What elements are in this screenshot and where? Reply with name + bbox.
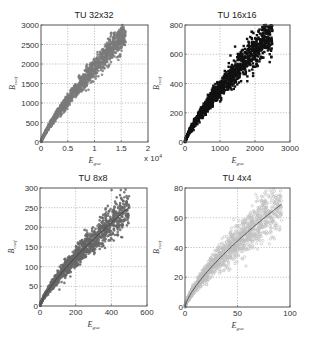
y-tick-label: 300 xyxy=(25,184,39,193)
chart-tu-16x16: TU 16x16 01000200030000200400600800EgsaB… xyxy=(152,10,299,166)
y-tick-label: 500 xyxy=(26,119,40,128)
y-tick-label: 800 xyxy=(170,21,184,30)
y-tick-label: 150 xyxy=(25,243,39,252)
y-tick-label: 40 xyxy=(174,244,183,253)
x-tick-label: 0 xyxy=(183,309,188,318)
y-tick-label: 1500 xyxy=(21,80,39,89)
chart-title: TU 4x4 xyxy=(222,173,251,183)
y-tick-label: 200 xyxy=(25,223,39,232)
chart-title: TU 16x16 xyxy=(217,10,256,20)
x-tick-label: 0.5 xyxy=(62,144,74,153)
y-tick-label: 2000 xyxy=(21,60,39,69)
x-tick-label: 2 xyxy=(146,144,151,153)
y-axis-label: Bcoef xyxy=(7,240,17,254)
x-tick-label: 50 xyxy=(233,309,242,318)
y-tick-label: 400 xyxy=(170,80,184,89)
y-axis-label: Bcoef xyxy=(8,76,18,90)
x-tick-label: 2000 xyxy=(246,144,264,153)
y-axis-label: Bcoef xyxy=(152,76,162,90)
chart-tu-8x8: TU 8x8 0200400600050100150200250300EgsaB… xyxy=(7,173,154,330)
chart-tu-32x32: TU 32x32 00.511.520500100015002000250030… xyxy=(8,10,162,166)
x-tick-label: 3000 xyxy=(281,144,299,153)
chart-title: TU 8x8 xyxy=(78,173,107,183)
x-tick-label: 1 xyxy=(92,144,97,153)
x-axis-label: Egsa xyxy=(88,156,101,166)
y-axis-label: Bcoef xyxy=(152,240,162,254)
x-tick-label: 0 xyxy=(39,144,44,153)
x-axis-label: Egsa xyxy=(231,321,244,331)
x-tick-label: 0 xyxy=(183,144,188,153)
y-tick-label: 0 xyxy=(34,302,39,311)
y-tick-label: 0 xyxy=(35,138,40,147)
x-tick-label: 0 xyxy=(38,308,43,317)
x-multiplier-label: x 104 xyxy=(144,153,162,163)
chart-tu-4x4: TU 4x4 050100020406080EgsaBcoef xyxy=(152,173,297,331)
y-tick-label: 60 xyxy=(174,214,183,223)
y-tick-label: 200 xyxy=(170,109,184,118)
x-tick-label: 400 xyxy=(105,308,119,317)
y-tick-label: 100 xyxy=(25,263,39,272)
x-tick-label: 100 xyxy=(283,309,297,318)
x-tick-label: 200 xyxy=(69,308,83,317)
y-tick-label: 80 xyxy=(174,184,183,193)
x-axis-label: Egsa xyxy=(87,320,100,330)
x-axis-label: Egsa xyxy=(231,156,244,166)
y-tick-label: 50 xyxy=(29,282,38,291)
y-tick-label: 3000 xyxy=(21,21,39,30)
y-tick-label: 0 xyxy=(179,303,184,312)
y-tick-label: 20 xyxy=(174,273,183,282)
x-tick-label: 1000 xyxy=(211,144,229,153)
y-tick-label: 1000 xyxy=(21,99,39,108)
chart-title: TU 32x32 xyxy=(74,10,113,20)
scatter-points xyxy=(184,188,283,308)
y-tick-label: 250 xyxy=(25,204,39,213)
y-tick-label: 600 xyxy=(170,50,184,59)
y-tick-label: 0 xyxy=(179,138,184,147)
y-tick-label: 2500 xyxy=(21,41,39,50)
x-tick-label: 1.5 xyxy=(116,144,128,153)
x-tick-label: 600 xyxy=(140,308,154,317)
figure-canvas: TU 32x32 00.511.520500100015002000250030… xyxy=(0,0,310,344)
